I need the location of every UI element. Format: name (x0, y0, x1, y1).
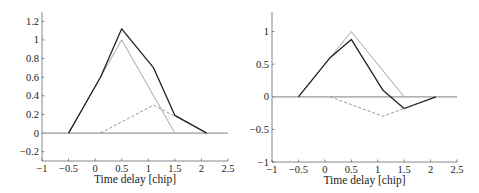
series-direct-path (298, 32, 404, 97)
chart-canvas: −0.200.20.40.60.811.2−1−0.500.511.522.5T… (0, 0, 479, 193)
x-tick-label: −1 (266, 164, 277, 175)
x-tick-label: 2 (428, 164, 433, 175)
right-plot: −1−0.500.51−1−0.500.511.522.5Time delay … (250, 12, 464, 187)
series-composite (298, 39, 436, 108)
y-tick-label: 0 (34, 128, 39, 139)
y-tick-label: −0.2 (20, 146, 39, 157)
y-tick-label: 1 (264, 26, 269, 37)
y-tick-label: 0 (264, 91, 269, 102)
y-tick-label: 0.5 (256, 59, 269, 70)
series-multipath (101, 105, 207, 133)
x-tick-label: 2.5 (450, 164, 463, 175)
x-axis-label: Time delay [chip] (324, 174, 406, 187)
y-tick-label: 0.6 (26, 72, 39, 83)
y-tick-label: 1.2 (26, 16, 39, 27)
y-tick-label: 0.8 (26, 53, 39, 64)
y-tick-label: −0.5 (250, 124, 269, 135)
y-tick-label: 1 (34, 34, 39, 45)
series-composite (69, 29, 207, 133)
series-direct-path (69, 40, 175, 133)
y-tick-label: 0.4 (26, 90, 40, 101)
x-tick-label: 2.5 (221, 163, 234, 174)
x-tick-label: 2 (199, 163, 204, 174)
series-multipath (330, 97, 436, 117)
x-axis-label: Time delay [chip] (94, 173, 176, 186)
x-tick-label: −0.5 (289, 164, 308, 175)
y-tick-label: 0.2 (26, 109, 39, 120)
x-tick-label: −1 (36, 163, 47, 174)
left-plot: −0.200.20.40.60.811.2−1−0.500.511.522.5T… (20, 12, 235, 186)
x-tick-label: −0.5 (59, 163, 78, 174)
